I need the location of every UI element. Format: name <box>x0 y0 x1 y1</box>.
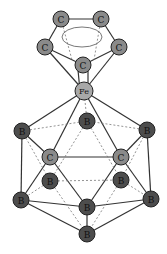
atom-label: C <box>118 153 125 163</box>
atom-label: B <box>47 177 54 187</box>
atom-b9: B <box>79 226 95 242</box>
atom-cp3: C <box>37 39 53 55</box>
atom-label: C <box>47 153 54 163</box>
atom-b1: B <box>79 113 95 129</box>
atom-label: B <box>84 203 91 213</box>
atom-b2: B <box>14 123 30 139</box>
atom-label: B <box>84 230 91 240</box>
atom-label: C <box>116 43 123 53</box>
atom-label: C <box>42 43 49 53</box>
atom-label: B <box>144 126 151 136</box>
atom-cp1: C <box>53 11 69 27</box>
atom-label: C <box>98 15 105 25</box>
atom-label: B <box>18 196 25 206</box>
atom-cp2: C <box>93 11 109 27</box>
atom-fe: Fe <box>75 82 93 100</box>
atom-c1: C <box>42 149 58 165</box>
atom-b7: B <box>79 199 95 215</box>
atom-label: C <box>58 15 65 25</box>
atom-b5: B <box>113 172 129 188</box>
atom-b4: B <box>42 173 58 189</box>
cp-ring-aromatic-ellipse <box>62 27 102 47</box>
atom-c2: C <box>113 149 129 165</box>
atom-label: B <box>148 195 155 205</box>
atom-label: B <box>19 127 26 137</box>
atom-label: C <box>80 61 87 71</box>
molecule-diagram: CCCCCFeBBBCCBBBBBB <box>0 0 167 254</box>
atom-b8: B <box>143 191 159 207</box>
atom-label: B <box>84 117 91 127</box>
atom-cp5: C <box>75 57 91 73</box>
atom-b3: B <box>139 122 155 138</box>
atom-cp4: C <box>111 39 127 55</box>
atom-label: Fe <box>79 87 89 96</box>
atom-b6: B <box>13 192 29 208</box>
atom-label: B <box>118 176 125 186</box>
